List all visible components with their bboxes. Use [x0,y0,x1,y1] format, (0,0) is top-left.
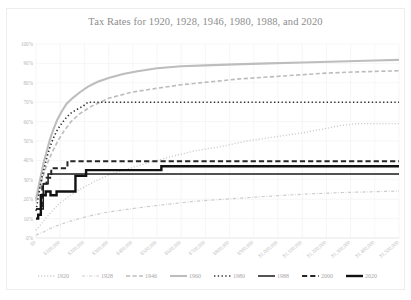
x-axis-tick-label: $1,500,000 [378,239,400,259]
y-axis-ticks: 0%10%20%30%40%50%60%70%80%90%100% [21,41,34,241]
legend: 19201928194619601980198820002020 [38,273,377,279]
legend-label-1960[interactable]: 1960 [189,273,201,279]
x-axis-tick-label: $700,000 [187,239,206,256]
x-axis-tick-label: $600,000 [163,239,182,256]
series-layer [36,60,399,235]
series-line-2000 [36,161,399,209]
series-line-1980 [36,102,399,211]
x-axis-tick-label: $500,000 [139,239,158,256]
x-axis-tick-label: $100,000 [42,239,61,256]
legend-label-1946[interactable]: 1946 [145,273,157,279]
legend-label-2020[interactable]: 2020 [365,273,377,279]
legend-label-1988[interactable]: 1988 [277,273,289,279]
y-axis-tick-label: 50% [23,138,33,144]
x-axis-tick-label: $1,100,000 [281,239,303,259]
legend-label-1980[interactable]: 1980 [233,273,245,279]
x-axis-tick-label: $1,000,000 [257,239,279,259]
y-axis-tick-label: 30% [23,177,33,183]
y-axis-tick-label: 100% [21,41,34,47]
y-axis-tick-label: 80% [23,80,33,86]
series-line-1988 [36,174,399,209]
x-axis-tick-label: $1,400,000 [354,239,376,259]
y-axis-tick-label: 70% [23,99,33,105]
y-axis-tick-label: 20% [23,196,33,202]
chart-card: Tax Rates for 1920, 1928, 1946, 1980, 19… [0,0,411,300]
series-line-1960 [36,60,399,199]
legend-label-1928[interactable]: 1928 [101,273,113,279]
y-axis-tick-label: 60% [23,119,33,125]
x-axis-tick-label: $1,200,000 [305,239,327,259]
series-line-1920 [36,124,399,231]
x-axis-tick-label: $1,300,000 [330,239,352,259]
series-line-1928 [36,191,399,235]
x-axis-ticks: $0$100,000$200,000$300,000$400,000$500,0… [29,239,400,259]
y-axis-tick-label: 90% [23,60,33,66]
chart-canvas: 0%10%20%30%40%50%60%70%80%90%100% $0$100… [0,0,411,300]
x-axis-tick-label: $800,000 [211,239,230,256]
series-line-1946 [36,71,399,201]
x-axis-tick-label: $900,000 [236,239,255,256]
x-axis-tick-label: $300,000 [90,239,109,256]
y-axis-tick-label: 40% [23,157,33,163]
x-axis-tick-label: $400,000 [115,239,134,256]
y-axis-tick-label: 10% [23,216,33,222]
legend-label-1920[interactable]: 1920 [57,273,69,279]
legend-label-2000[interactable]: 2000 [321,273,333,279]
x-axis-tick-label: $200,000 [66,239,85,256]
